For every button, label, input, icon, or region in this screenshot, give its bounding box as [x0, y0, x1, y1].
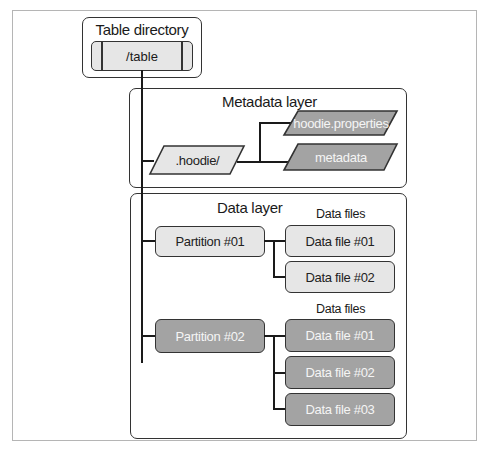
metadata-label: metadata	[284, 143, 398, 171]
partition-01-branch-vertical	[273, 240, 275, 277]
partition-01-node: Partition #01	[155, 226, 265, 257]
hoodie-folder-label: .hoodie/	[150, 145, 245, 175]
hoodie-branch-vertical	[259, 122, 261, 163]
trunk-connector	[141, 70, 143, 363]
hoodie-branch-horizontal	[237, 161, 290, 163]
table-directory-title: Table directory	[83, 21, 201, 38]
trunk-to-partition-01-connector	[142, 240, 156, 242]
partition-02-data-file-01: Data file #01	[285, 319, 395, 352]
partition-02-data-file-02: Data file #02	[285, 356, 395, 389]
trunk-to-hoodie-connector	[142, 160, 154, 162]
partition-02-branch-horizontal	[264, 335, 286, 337]
partition-01-data-file-01: Data file #01	[285, 225, 395, 257]
trunk-to-partition-02-connector	[142, 335, 156, 337]
partition-02-data-file-03: Data file #03	[285, 393, 395, 426]
partition-01-data-file-02: Data file #02	[285, 261, 395, 293]
partition-02-node: Partition #02	[155, 319, 265, 353]
partition-02-files-title: Data files	[316, 302, 365, 316]
data-layer-title: Data layer	[217, 199, 282, 216]
partition-01-branch-horizontal	[264, 240, 286, 242]
metadata-layer-title: Metadata layer	[222, 93, 317, 110]
partition-01-files-title: Data files	[316, 207, 365, 221]
table-path-node: /table	[91, 41, 193, 71]
hoodie-properties-label: hoodie.properties	[284, 110, 398, 136]
table-path-label: /table	[92, 42, 192, 70]
